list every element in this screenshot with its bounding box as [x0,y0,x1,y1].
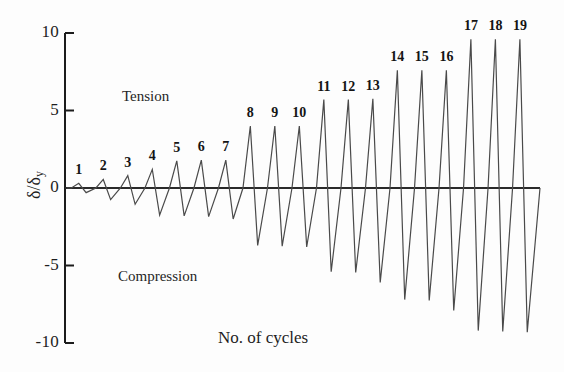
y-axis-title: δ/δy [0,162,70,208]
cycle-number-label-17: 17 [464,18,478,34]
cycle-number-label-13: 13 [366,78,380,94]
cyclic-loading-chart: 1050-5-10 12345678910111213141516171819 … [0,0,564,372]
cycle-number-label-9: 9 [271,105,278,121]
y-tick-label--5: -5 [17,255,59,275]
cycle-number-label-8: 8 [247,105,254,121]
cycle-number-label-19: 19 [513,18,527,34]
y-axis-title-text: δ/δy [24,171,47,199]
cycle-number-label-3: 3 [124,155,131,171]
x-axis-title: No. of cycles [218,328,308,348]
y-tick-label-10: 10 [17,22,59,42]
cycle-number-label-10: 10 [292,105,306,121]
cycle-number-label-15: 15 [415,49,429,65]
cycle-number-label-5: 5 [173,140,180,156]
compression-label: Compression [118,268,197,285]
y-tick-label-5: 5 [17,100,59,120]
cycle-number-label-1: 1 [75,162,82,178]
cyclic-displacement-line [67,39,540,332]
y-tick-label--10: -10 [17,332,59,352]
cycle-number-label-16: 16 [439,49,453,65]
chart-plot-area [0,0,564,372]
cycle-number-label-11: 11 [317,79,330,95]
cycle-number-label-2: 2 [100,158,107,174]
cycle-number-label-14: 14 [390,49,404,65]
cycle-number-label-6: 6 [198,139,205,155]
cycle-number-label-18: 18 [488,18,502,34]
tension-label: Tension [122,88,169,105]
cycle-number-label-7: 7 [222,139,229,155]
cycle-number-label-12: 12 [341,79,355,95]
cycle-number-label-4: 4 [149,148,156,164]
